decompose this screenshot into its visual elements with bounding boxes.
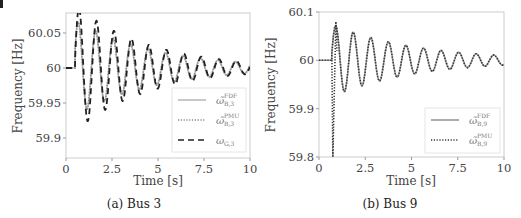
x-axis-ticks-b: 02.557.510: [315, 157, 511, 175]
legend-label: ω̃: [469, 135, 477, 146]
svg-text:B,9: B,9: [477, 120, 487, 127]
panel-bus-9: 60.16059.959.8 02.557.510 Time [s] Frequ…: [264, 5, 511, 211]
svg-text:B,3: B,3: [224, 100, 234, 107]
x-tick-label: 7.5: [195, 162, 213, 176]
x-tick-label: 7.5: [449, 161, 467, 175]
x-tick-label: 0: [62, 162, 69, 176]
y-tick-label: 59.8: [288, 150, 314, 164]
x-tick-label: 0: [315, 161, 322, 175]
legend-b: ω̃FDFB,9ω̃PMUB,9: [425, 108, 500, 153]
legend-a: ω̃FDFB,3ω̃PMUB,3ωG,3: [172, 88, 246, 152]
svg-text:FDF: FDF: [477, 112, 490, 119]
svg-text:B,3: B,3: [224, 120, 234, 127]
caption-b: (b) Bus 9: [362, 197, 417, 211]
y-tick-label: 59.9: [35, 131, 61, 145]
caption-a: (a) Bus 3: [107, 197, 162, 211]
y-tick-label: 60: [46, 61, 61, 75]
legend-label: ω̃: [216, 115, 224, 126]
x-axis-label-b: Time [s]: [386, 174, 436, 188]
legend-label: ω: [216, 135, 224, 146]
series-line: [319, 26, 504, 92]
figure: 60.056059.9559.9 02.557.510 Time [s] Fre…: [0, 0, 521, 218]
x-tick-label: 5: [408, 161, 415, 175]
y-tick-label: 60.05: [28, 26, 61, 40]
x-tick-label: 2.5: [356, 161, 374, 175]
legend-label: ω̃: [216, 95, 224, 106]
svg-text:G,3: G,3: [224, 140, 234, 147]
y-axis-ticks-a: 60.056059.9559.9: [28, 26, 66, 145]
x-tick-label: 10: [243, 162, 258, 176]
y-tick-label: 60.1: [288, 5, 314, 19]
svg-text:PMU: PMU: [224, 112, 239, 119]
y-axis-ticks-b: 60.16059.959.8: [288, 5, 319, 164]
svg-text:FDF: FDF: [224, 92, 237, 99]
svg-text:PMU: PMU: [477, 132, 492, 139]
x-tick-label: 10: [497, 161, 512, 175]
x-tick-label: 2.5: [103, 162, 121, 176]
y-tick-label: 59.9: [288, 102, 314, 116]
legend-label: ω̃: [469, 115, 477, 126]
y-axis-label-b: Frequency [Hz]: [264, 38, 278, 133]
panel-bus-3: 60.056059.9559.9 02.557.510 Time [s] Fre…: [11, 8, 257, 211]
x-axis-label-a: Time [s]: [133, 174, 183, 188]
y-tick-label: 59.95: [28, 96, 61, 110]
y-axis-label-a: Frequency [Hz]: [11, 39, 25, 134]
y-tick-label: 60: [299, 53, 314, 67]
corner-mark: [0, 0, 3, 8]
svg-text:B,9: B,9: [477, 140, 487, 147]
